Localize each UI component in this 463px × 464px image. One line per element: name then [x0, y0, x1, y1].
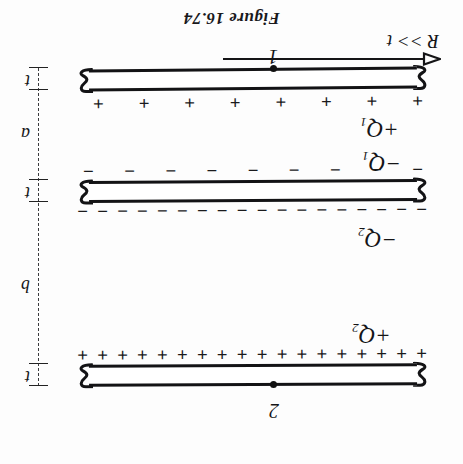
minus-sign: − — [157, 202, 168, 221]
dimension-label-thickness-top: t — [25, 366, 30, 387]
dimension-column: t b t a t — [9, 68, 49, 386]
minus-sign: − — [297, 201, 308, 220]
minus-sign: − — [217, 201, 228, 220]
minus-sign: − — [416, 200, 427, 219]
plus-sign: + — [137, 346, 148, 365]
minus-sign: − — [177, 201, 188, 220]
minus-sign: − — [330, 160, 341, 179]
plus-sign: + — [316, 345, 327, 364]
plus-sign: + — [376, 344, 387, 363]
minus-sign: − — [97, 202, 108, 221]
top-plate-plus-row: + + + + + + + + + + + + + + + + + + — [77, 344, 427, 365]
dimension-label-thickness-middle: t — [25, 182, 30, 203]
minus-sign: − — [137, 202, 148, 221]
plus-sign: + — [217, 345, 228, 364]
plus-sign: + — [321, 92, 332, 111]
bottom-plate-body — [89, 66, 417, 91]
plus-sign: + — [277, 345, 288, 364]
break-symbol-right-icon — [77, 363, 93, 389]
minus-sign: − — [77, 202, 88, 221]
plus-sign: + — [197, 345, 208, 364]
dimension-leader-line — [38, 68, 39, 386]
plus-sign: + — [184, 94, 195, 113]
minus-sign: − — [376, 200, 387, 219]
plus-sign: + — [177, 345, 188, 364]
plus-sign: + — [237, 345, 248, 364]
plus-sign: + — [117, 346, 128, 365]
minus-sign: − — [124, 162, 135, 181]
charge-label-middle-lower-subscript: 1 — [362, 149, 369, 164]
minus-sign: − — [197, 201, 208, 220]
plus-sign: + — [257, 345, 268, 364]
plus-sign: + — [356, 344, 367, 363]
plus-sign: + — [396, 344, 407, 363]
charge-label-middle-upper-subscript: 2 — [358, 225, 365, 240]
dimension-label-thickness-bottom: t — [25, 70, 30, 91]
top-plate — [77, 363, 429, 387]
terminal-dot-2 — [270, 381, 277, 388]
charge-label-middle-upper-text: −Q — [365, 227, 397, 252]
terminal-label-2: 2 — [269, 399, 279, 422]
minus-sign: − — [248, 161, 259, 180]
charge-label-bottom-text: +Q — [367, 117, 399, 142]
dimension-label-gap-upper: b — [21, 275, 30, 296]
plus-sign: + — [157, 345, 168, 364]
minus-sign: − — [396, 200, 407, 219]
minus-sign: − — [257, 201, 268, 220]
minus-sign: − — [277, 201, 288, 220]
middle-plate-minus-row-upper: − − − − − − − − − − − − − − − − − − — [77, 198, 427, 219]
minus-sign: − — [237, 201, 248, 220]
minus-sign: − — [316, 201, 327, 220]
minus-sign: − — [206, 161, 217, 180]
radius-arrow-icon — [223, 50, 441, 66]
plus-sign: + — [296, 345, 307, 364]
dimension-tick — [29, 201, 48, 202]
charge-label-middle-lower: −Q1 — [362, 150, 401, 176]
figure-caption: Figure 16.74 — [0, 8, 463, 28]
plus-sign: + — [230, 93, 241, 112]
dimension-tick — [29, 67, 48, 68]
dimension-label-gap-lower: a — [21, 123, 30, 144]
minus-sign: − — [165, 161, 176, 180]
plus-sign: + — [366, 92, 377, 111]
charge-label-bottom-subscript: 1 — [360, 115, 367, 130]
minus-sign: − — [117, 202, 128, 221]
charge-label-bottom-plate: +Q1 — [360, 116, 399, 142]
dimension-tick — [29, 385, 48, 386]
dimension-tick — [29, 179, 48, 180]
bottom-plate — [77, 66, 429, 91]
plus-sign: + — [275, 93, 286, 112]
dimension-tick — [29, 89, 48, 90]
charge-label-middle-upper: −Q2 — [358, 226, 397, 252]
charge-label-top-subscript: 2 — [352, 321, 359, 336]
top-plate-body — [89, 363, 417, 387]
minus-sign: − — [356, 200, 367, 219]
figure-canvas: Figure 16.74 + + + + + + + + +Q1 1 — [0, 0, 463, 464]
plus-sign: + — [97, 346, 108, 365]
plus-sign: + — [336, 345, 347, 364]
plus-sign: + — [412, 91, 423, 110]
minus-sign: − — [336, 200, 347, 219]
radius-condition-label: R >> t — [387, 30, 439, 52]
charge-label-middle-lower-text: −Q — [369, 151, 401, 176]
plus-sign: + — [93, 94, 104, 113]
minus-sign: − — [289, 161, 300, 180]
break-symbol-right-icon — [77, 68, 93, 94]
dimension-tick — [29, 363, 48, 364]
bottom-plate-plus-row: + + + + + + + + — [93, 91, 423, 113]
plus-sign: + — [139, 94, 150, 113]
